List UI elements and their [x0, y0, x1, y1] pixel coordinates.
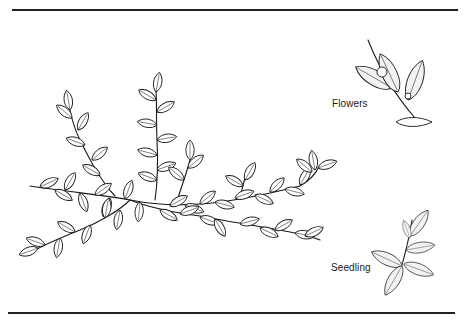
flowers-inset-drawing — [352, 40, 432, 127]
seedling-inset-drawing — [369, 207, 436, 298]
flowers-label: Flowers — [332, 98, 368, 109]
seedling-label: Seedling — [331, 262, 371, 273]
bottom-rule — [8, 312, 455, 314]
main-plant-drawing — [18, 72, 338, 259]
plant-illustration — [0, 0, 468, 322]
